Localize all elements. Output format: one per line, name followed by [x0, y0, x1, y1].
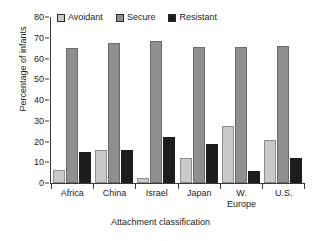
bar-group: [135, 17, 177, 183]
y-tick-label: 70: [34, 33, 44, 42]
y-tick-mark: [45, 79, 49, 80]
bar-group: [51, 17, 93, 183]
y-tick-mark: [45, 141, 49, 142]
y-tick-mark: [45, 17, 49, 18]
x-tick-label: China: [93, 188, 135, 214]
bar-secure: [193, 47, 205, 183]
y-tick-mark: [45, 162, 49, 163]
bar-secure: [277, 46, 289, 183]
y-tick-label: 50: [34, 75, 44, 84]
bar-groups: [51, 17, 304, 183]
bar-avoidant: [264, 140, 276, 183]
plot-area: [50, 17, 304, 183]
bar-resistant: [121, 150, 133, 183]
y-tick-mark: [45, 100, 49, 101]
y-tick-mark: [45, 120, 49, 121]
bar-resistant: [290, 158, 302, 183]
y-tick-label: 40: [34, 96, 44, 105]
bar-secure: [66, 48, 78, 183]
x-tick-label: Japan: [178, 188, 220, 214]
bar-resistant: [79, 152, 91, 183]
y-tick-label: 0: [39, 179, 44, 188]
x-tick-label: Israel: [136, 188, 178, 214]
bar-resistant: [163, 137, 175, 183]
bar-resistant: [206, 144, 218, 183]
bar-group: [178, 17, 220, 183]
bar-avoidant: [53, 170, 65, 183]
y-axis-ticks: 01020304050607080: [28, 0, 50, 241]
x-axis-title: Attachment classification: [0, 217, 321, 227]
bar-resistant: [248, 171, 260, 183]
y-tick-label: 30: [34, 116, 44, 125]
bar-avoidant: [137, 178, 149, 183]
bar-group: [93, 17, 135, 183]
bar-avoidant: [180, 158, 192, 183]
bar-secure: [235, 47, 247, 183]
x-tick-label: U.S.: [263, 188, 305, 214]
bar-avoidant: [95, 150, 107, 183]
bar-group: [262, 17, 304, 183]
x-tick-label: W.Europe: [220, 188, 262, 214]
y-tick-mark: [45, 37, 49, 38]
bar-secure: [108, 43, 120, 183]
y-tick-label: 20: [34, 137, 44, 146]
y-tick-label: 10: [34, 158, 44, 167]
y-tick-mark: [45, 183, 49, 184]
y-tick-label: 80: [34, 13, 44, 22]
x-tick-label: Africa: [51, 188, 93, 214]
y-tick-mark: [45, 58, 49, 59]
x-axis-tick-labels: AfricaChinaIsraelJapanW.EuropeU.S.: [51, 188, 305, 214]
y-tick-label: 60: [34, 54, 44, 63]
bar-chart: Avoidant Secure Resistant Percentage of …: [0, 0, 321, 241]
bar-avoidant: [222, 126, 234, 183]
bar-secure: [150, 41, 162, 183]
bar-group: [220, 17, 262, 183]
y-axis-title: Percentage of infants: [18, 0, 28, 144]
